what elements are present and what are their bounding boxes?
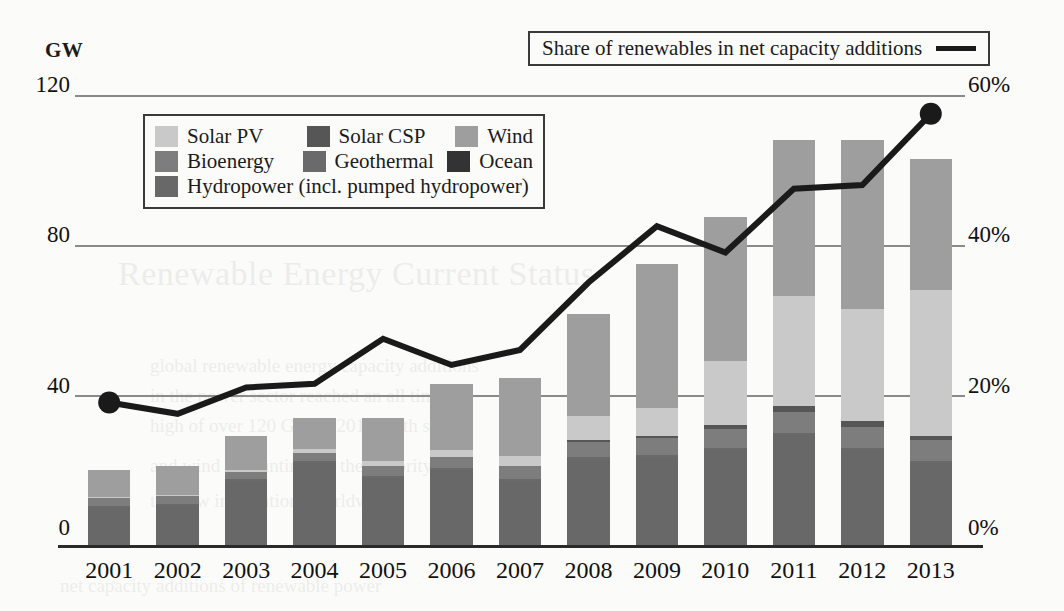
y2-tick-20pct: 20%	[968, 373, 1038, 399]
x-label-2012: 2012	[828, 557, 896, 584]
chart-figure: Renewable Energy Current Status global r…	[0, 0, 1064, 611]
legend-item-solar-csp[interactable]: Solar CSP	[307, 124, 456, 148]
x-label-2005: 2005	[349, 557, 417, 584]
legend-swatch-icon	[155, 126, 178, 147]
x-label-2008: 2008	[554, 557, 622, 584]
share-line-marker-2001	[98, 392, 120, 414]
y-tick-120: 120	[12, 72, 70, 98]
line-swatch-icon	[936, 46, 976, 51]
legend-item-bioenergy[interactable]: Bioenergy	[155, 149, 303, 173]
y-axis-unit-label: GW	[45, 38, 83, 63]
legend-swatch-icon	[455, 126, 478, 147]
x-label-2007: 2007	[486, 557, 554, 584]
legend-label: Hydropower (incl. pumped hydropower)	[187, 174, 529, 198]
x-label-2003: 2003	[212, 557, 280, 584]
x-label-2009: 2009	[623, 557, 691, 584]
x-axis-baseline	[58, 545, 983, 548]
legend-swatch-icon	[307, 126, 330, 147]
category-legend-box: Solar PVSolar CSPWindBioenergyGeothermal…	[143, 114, 545, 209]
x-label-2001: 2001	[75, 557, 143, 584]
x-label-2011: 2011	[760, 557, 828, 584]
legend-swatch-icon	[447, 151, 470, 172]
y2-tick-0pct: 0%	[968, 515, 1038, 541]
y2-tick-60pct: 60%	[968, 72, 1038, 98]
legend-label: Solar PV	[187, 124, 263, 148]
legend-row-1: Solar PVSolar CSPWind	[155, 124, 533, 148]
line-legend-box: Share of renewables in net capacity addi…	[528, 31, 990, 66]
legend-row-3: Hydropower (incl. pumped hydropower)	[155, 174, 533, 198]
y-tick-40: 40	[12, 373, 70, 399]
legend-swatch-icon	[155, 151, 178, 172]
legend-item-wind[interactable]: Wind	[455, 124, 533, 148]
y-tick-80: 80	[12, 222, 70, 248]
y2-tick-40pct: 40%	[968, 222, 1038, 248]
legend-item-geothermal[interactable]: Geothermal	[303, 149, 448, 173]
legend-label: Wind	[487, 124, 533, 148]
legend-row-2: BioenergyGeothermalOcean	[155, 149, 533, 173]
legend-label: Geothermal	[335, 149, 434, 173]
legend-swatch-icon	[155, 176, 178, 197]
x-label-2006: 2006	[417, 557, 485, 584]
legend-swatch-icon	[303, 151, 326, 172]
x-label-2010: 2010	[691, 557, 759, 584]
legend-item-hydropower-incl-pumped-hydropower[interactable]: Hydropower (incl. pumped hydropower)	[155, 174, 310, 198]
legend-label: Ocean	[479, 149, 533, 173]
legend-item-solar-pv[interactable]: Solar PV	[155, 124, 307, 148]
y-tick-0: 0	[12, 515, 70, 541]
x-label-2004: 2004	[280, 557, 348, 584]
share-line-marker-2013	[920, 103, 942, 125]
legend-label: Solar CSP	[339, 124, 426, 148]
x-label-2002: 2002	[143, 557, 211, 584]
line-legend-label: Share of renewables in net capacity addi…	[542, 36, 922, 61]
x-label-2013: 2013	[897, 557, 965, 584]
legend-item-ocean[interactable]: Ocean	[447, 149, 533, 173]
legend-label: Bioenergy	[187, 149, 274, 173]
